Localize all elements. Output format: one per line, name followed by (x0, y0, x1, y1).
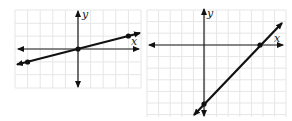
point-4-1 (126, 33, 131, 38)
y-axis-label: y (206, 7, 214, 20)
point-5-0 (257, 42, 262, 47)
point-0-neg5 (201, 101, 206, 106)
point-neg4-neg1 (25, 59, 30, 64)
plotted-line (194, 23, 282, 115)
graph-left: y x (0, 0, 146, 121)
x-axis-label: x (274, 32, 281, 45)
graph-right: y x (146, 0, 292, 121)
x-axis-label: x (131, 35, 138, 48)
graph-left-svg: y x (0, 0, 146, 121)
point-origin (75, 46, 80, 51)
grid (147, 10, 286, 117)
graph-right-svg: y x (146, 0, 292, 121)
y-axis-label: y (81, 8, 89, 21)
